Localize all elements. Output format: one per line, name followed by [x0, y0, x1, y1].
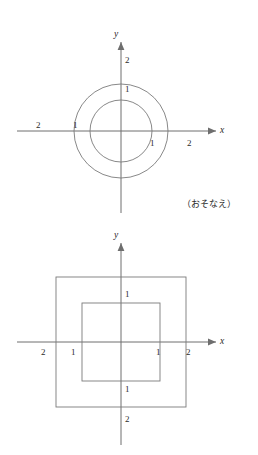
y-axis-label: y — [114, 231, 118, 241]
caption-note: （おそなえ） — [182, 199, 236, 210]
circles-x-tick-pos1: 1 — [150, 139, 155, 148]
squares-y-tick-1-down: 1 — [125, 385, 130, 394]
circles-y-tick-2: 2 — [125, 56, 130, 65]
circles-x-tick-neg1: 1 — [73, 121, 78, 130]
y-axis-arrow-icon — [118, 243, 125, 251]
squares-x-tick-pos1: 1 — [156, 348, 161, 357]
squares-y-tick-2-down: 2 — [125, 415, 130, 424]
x-axis-arrow-icon — [208, 128, 216, 135]
figure-concentric-squares: x y 1 1 2 2 1 1 2 — [0, 225, 258, 455]
squares-y-tick-1-up: 1 — [125, 290, 130, 299]
x-axis-arrow-icon — [208, 339, 216, 346]
circles-diagram-svg — [0, 0, 258, 228]
y-axis-label: y — [114, 30, 118, 40]
circles-y-tick-1: 1 — [125, 85, 130, 94]
squares-x-tick-pos2: 2 — [186, 348, 191, 357]
squares-x-tick-neg2: 2 — [41, 348, 46, 357]
circles-x-tick-neg2: 2 — [36, 121, 41, 130]
squares-x-tick-neg1: 1 — [71, 348, 76, 357]
circles-x-tick-pos2: 2 — [187, 139, 192, 148]
figure-page: x y 2 1 2 1 1 2 （おそなえ） x y 1 1 2 2 1 1 2 — [0, 0, 258, 455]
y-axis-arrow-icon — [118, 42, 125, 50]
figure-concentric-circles: x y 2 1 2 1 1 2 — [0, 0, 258, 228]
x-axis-label: x — [220, 126, 224, 136]
x-axis-label: x — [220, 337, 224, 347]
